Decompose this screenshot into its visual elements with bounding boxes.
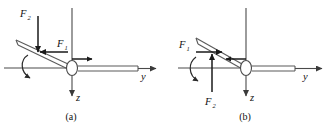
panel-b-axis-y-label: y: [302, 71, 308, 82]
panel-b-spin-arrow: [190, 57, 198, 81]
panel-a: F 2 F 1 y z (a): [4, 8, 156, 123]
panel-b-force-F2-subscript: 2: [213, 102, 217, 109]
panel-b: F 1 F 2 y z (b): [178, 8, 322, 123]
panel-a-hub: [67, 61, 78, 76]
panel-b-axis-z-label: z: [249, 92, 254, 103]
panel-a-axis-z-label: z: [75, 92, 80, 103]
panel-a-spin-arrow: [22, 55, 30, 78]
panel-a-caption: (a): [65, 111, 76, 123]
panel-b-hub: [241, 61, 252, 76]
panel-b-rod-right: [252, 66, 295, 71]
physics-force-diagram: F 2 F 1 y z (a): [0, 0, 332, 129]
panel-a-axis-y-label: y: [140, 71, 146, 82]
panel-a-rod-right: [78, 66, 138, 71]
panel-b-force-F1-subscript: 1: [187, 45, 190, 52]
panel-a-force-F1-subscript: 1: [65, 44, 68, 51]
panel-b-rod-angled: [196, 38, 244, 70]
panel-b-caption: (b): [239, 111, 251, 123]
panel-a-force-F2-label: F: [19, 8, 27, 19]
diagram-canvas: F 2 F 1 y z (a): [0, 0, 332, 129]
panel-a-force-F2-subscript: 2: [28, 14, 32, 21]
panel-a-force-F1-label: F: [56, 38, 64, 49]
panel-b-force-F2-label: F: [204, 96, 212, 107]
panel-b-force-F1-label: F: [178, 39, 186, 50]
